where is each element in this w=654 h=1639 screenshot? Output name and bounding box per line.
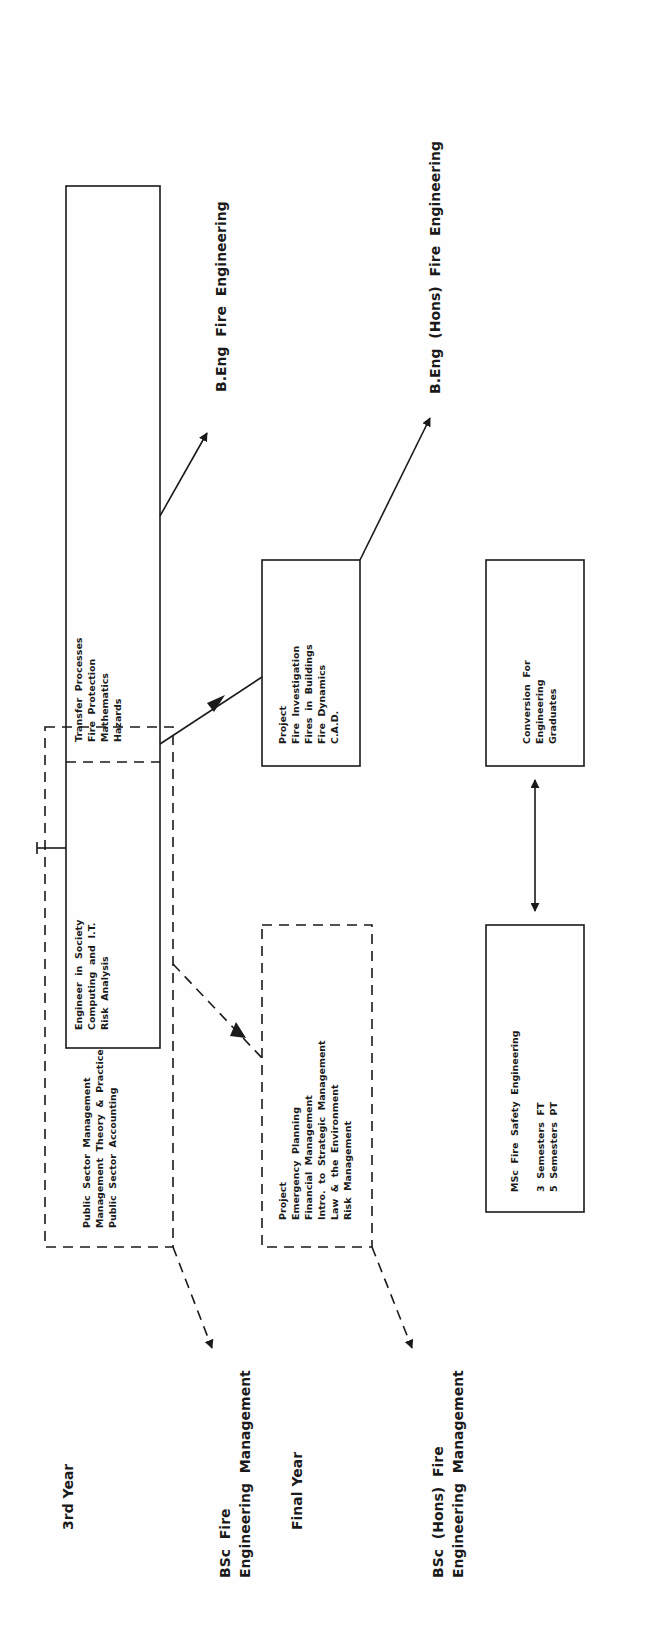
svg-text:Mathematics: Mathematics [99,673,110,742]
svg-text:Engineer in Society: Engineer in Society [73,919,84,1030]
arrow-to-bsc-fem [173,1247,212,1348]
svg-text:Transfer Processes: Transfer Processes [73,637,84,742]
svg-text:Engineering: Engineering [534,680,545,744]
third-year-shared-text: Engineer in Society Computing and I.T. R… [73,919,110,1030]
third-year-management-text: Public Sector Management Management Theo… [81,1049,118,1228]
arrow-to-beng-fe [160,433,207,516]
svg-text:3rd Year: 3rd Year [60,1464,76,1530]
svg-text:BSc Fire: BSc Fire [217,1508,233,1578]
svg-text:Project: Project [277,705,288,744]
svg-text:Final Year: Final Year [289,1452,305,1530]
svg-text:Computing and I.T.: Computing and I.T. [86,923,97,1030]
arrow-to-bsc-hons-fem [372,1247,412,1348]
svg-text:Engineering Management: Engineering Management [237,1370,253,1578]
svg-text:Public Sector Management: Public Sector Management [81,1077,92,1228]
svg-text:Intro. to Strategic Managem: Intro. to Strategic Management [316,1040,327,1220]
svg-text:Fire Dynamics: Fire Dynamics [316,664,327,744]
arrow-head-final-management [230,1022,246,1038]
svg-text:Conversion For: Conversion For [521,660,532,744]
svg-text:B.Eng Fire Engineering: B.Eng Fire Engineering [213,201,229,392]
final-year-engineering-text: Project Fire Investigation Fires in Buil… [277,644,340,744]
arrow-to-final-year-management [173,964,262,1058]
svg-text:B.Eng (Hons) Fire Engineeri: B.Eng (Hons) Fire Engineering [427,141,443,394]
third-year-engineering-box [66,186,160,1048]
svg-text:5 Semesters PT: 5 Semesters PT [548,1102,559,1192]
svg-text:Graduates: Graduates [547,688,558,744]
svg-text:C.A.D.: C.A.D. [329,711,340,744]
svg-text:Risk Analysis: Risk Analysis [99,956,110,1030]
msc-text: MSc Fire Safety Engineering 3 Semesters … [509,1030,559,1192]
svg-text:3 Semesters FT: 3 Semesters FT [535,1102,546,1192]
svg-text:Financial Management: Financial Management [303,1095,314,1220]
final-year-label: Final Year [289,1452,305,1530]
svg-text:Public Sector Accounting: Public Sector Accounting [107,1087,118,1228]
beng-hons-fe-label: B.Eng (Hons) Fire Engineering [427,141,443,394]
bsc-hons-fem-label: BSc (Hons) Fire Engineering Management [430,1370,466,1578]
svg-text:Management Theory & Practic: Management Theory & Practice [94,1049,105,1228]
svg-text:Hazards: Hazards [112,698,123,742]
svg-text:Law & the Environment: Law & the Environment [329,1084,340,1220]
final-year-management-text: Project Emergency Planning Financial Man… [277,1040,353,1220]
course-structure-diagram: 3rd Year BSc Fire Engineering Management… [0,0,654,1639]
third-year-label: 3rd Year [60,1464,76,1530]
svg-text:Engineering Management: Engineering Management [450,1370,466,1578]
svg-text:MSc Fire Safety Engineering: MSc Fire Safety Engineering [509,1030,520,1192]
arrow-to-final-year-engineering [160,677,262,744]
svg-text:BSc (Hons) Fire: BSc (Hons) Fire [430,1446,446,1578]
svg-text:Project: Project [277,1181,288,1220]
bsc-fem-label: BSc Fire Engineering Management [217,1370,253,1578]
svg-text:Fires in Buildings: Fires in Buildings [303,644,314,744]
svg-text:Emergency Planning: Emergency Planning [290,1107,301,1220]
svg-text:Risk Management: Risk Management [342,1120,353,1220]
conversion-text: Conversion For Engineering Graduates [521,660,558,744]
svg-text:Fire Protection: Fire Protection [86,658,97,742]
arrow-to-beng-hons-fe [360,418,430,560]
beng-fe-label: B.Eng Fire Engineering [213,201,229,392]
svg-text:Fire Investigation: Fire Investigation [290,646,301,744]
